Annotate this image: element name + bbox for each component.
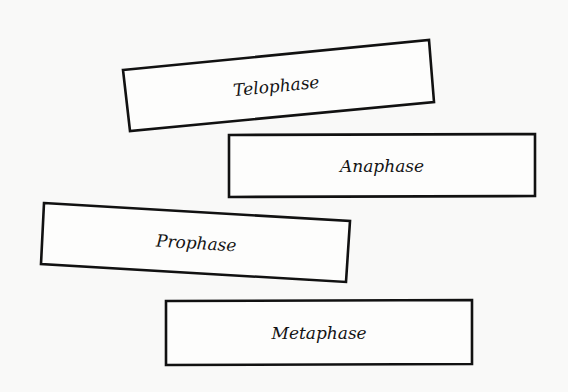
card-label-metaphase: Metaphase [272, 323, 367, 343]
card-label-anaphase: Anaphase [340, 156, 424, 176]
